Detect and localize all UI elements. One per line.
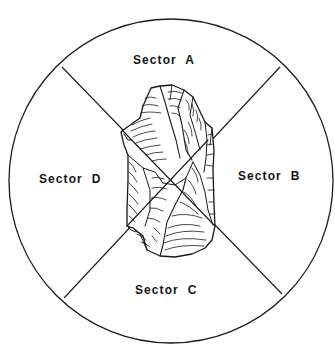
artifact-drawing bbox=[121, 85, 215, 257]
sector-c-label: Sector C bbox=[135, 282, 197, 297]
sector-b-label: Sector B bbox=[238, 168, 300, 183]
sector-d-label: Sector D bbox=[39, 171, 101, 186]
sector-a-label: Sector A bbox=[133, 52, 195, 67]
sector-diagram: Sector A Sector B Sector C Sector D bbox=[0, 0, 335, 362]
